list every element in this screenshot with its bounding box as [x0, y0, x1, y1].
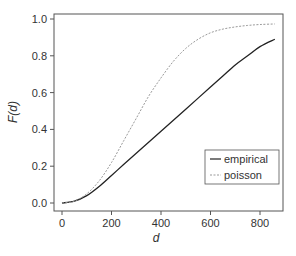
x-tick-label: 400 — [152, 217, 170, 229]
x-axis-label: d — [153, 231, 160, 245]
x-tick-label: 200 — [102, 217, 120, 229]
legend-label-poisson: poisson — [224, 169, 262, 181]
legend-label-empirical: empirical — [224, 153, 268, 165]
x-axis: 0200400600800 — [59, 211, 269, 229]
y-tick-label: 0.4 — [32, 123, 47, 135]
y-tick-label: 1.0 — [32, 13, 47, 25]
chart: 0.00.20.40.60.81.0 0200400600800 empiric… — [0, 0, 296, 256]
y-tick-label: 0.6 — [32, 87, 47, 99]
y-tick-label: 0.2 — [32, 160, 47, 172]
y-axis-label: F(d) — [6, 101, 20, 123]
y-tick-label: 0.0 — [32, 197, 47, 209]
y-axis: 0.00.20.40.60.81.0 — [32, 13, 54, 209]
y-tick-label: 0.8 — [32, 50, 47, 62]
x-tick-label: 800 — [251, 217, 269, 229]
x-tick-label: 0 — [59, 217, 65, 229]
legend: empirical poisson — [205, 150, 279, 184]
x-tick-label: 600 — [201, 217, 219, 229]
